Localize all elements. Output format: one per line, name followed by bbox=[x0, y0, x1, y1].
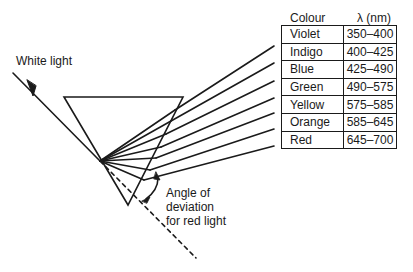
colour-cell: Green bbox=[282, 78, 344, 96]
ray-indigo bbox=[171, 63, 274, 121]
deviation-angle-arc bbox=[146, 178, 158, 199]
header-wavelength: λ (nm) bbox=[357, 11, 391, 25]
arc-arrowhead-bottom-icon bbox=[142, 197, 150, 203]
table-row: Red 645–700 bbox=[282, 131, 397, 149]
wavelength-cell: 400–425 bbox=[344, 43, 397, 61]
angle-label-line-2: deviation bbox=[166, 200, 226, 214]
colour-wavelength-table: Violet 350–400 Indigo 400–425 Blue 425–4… bbox=[281, 25, 397, 149]
table-row: Indigo 400–425 bbox=[282, 43, 397, 61]
angle-label-line-3: for red light bbox=[166, 214, 226, 228]
ray-blue bbox=[166, 81, 274, 134]
wavelength-cell: 350–400 bbox=[344, 26, 397, 44]
dispersed-rays bbox=[144, 46, 274, 180]
wavelength-cell: 645–700 bbox=[344, 131, 397, 149]
table-row: Orange 585–645 bbox=[282, 113, 397, 131]
colour-cell: Orange bbox=[282, 113, 344, 131]
header-colour: Colour bbox=[290, 11, 325, 25]
colour-cell: Yellow bbox=[282, 96, 344, 114]
incident-ray bbox=[13, 73, 100, 161]
ray-orange bbox=[150, 129, 274, 170]
wavelength-cell: 490–575 bbox=[344, 78, 397, 96]
table-row: Violet 350–400 bbox=[282, 26, 397, 44]
ray-violet bbox=[175, 46, 274, 110]
table-row: Blue 425–490 bbox=[282, 61, 397, 79]
white-light-label: White light bbox=[16, 55, 72, 68]
wavelength-cell: 585–645 bbox=[344, 113, 397, 131]
angle-of-deviation-label: Angle of deviation for red light bbox=[166, 186, 226, 228]
wavelength-cell: 575–585 bbox=[344, 96, 397, 114]
colour-cell: Red bbox=[282, 131, 344, 149]
wavelength-cell: 425–490 bbox=[344, 61, 397, 79]
colour-cell: Violet bbox=[282, 26, 344, 44]
angle-label-line-1: Angle of bbox=[166, 186, 226, 200]
table-row: Yellow 575–585 bbox=[282, 96, 397, 114]
colour-cell: Indigo bbox=[282, 43, 344, 61]
table-row: Green 490–575 bbox=[282, 78, 397, 96]
colour-cell: Blue bbox=[282, 61, 344, 79]
